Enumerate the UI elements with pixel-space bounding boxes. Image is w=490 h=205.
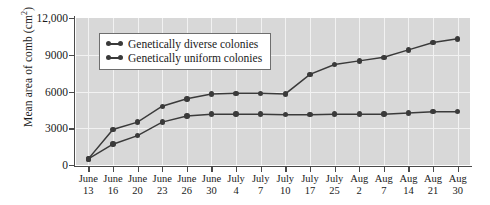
- y-tick-label: 6000: [28, 86, 68, 98]
- y-tick-label: 3000: [28, 122, 68, 134]
- x-tick-mark: [285, 167, 286, 172]
- x-tick-mark: [138, 167, 139, 172]
- x-tick-mark: [458, 167, 459, 172]
- legend-label-diverse: Genetically diverse colonies: [128, 38, 258, 50]
- grid-line-vertical: [88, 18, 89, 165]
- x-tick-day: 30: [436, 185, 480, 197]
- x-tick-label: Aug30: [436, 173, 480, 196]
- x-tick-mark: [162, 167, 163, 172]
- legend-item-diverse: Genetically diverse colonies: [106, 37, 262, 51]
- grid-line-vertical: [384, 18, 385, 165]
- y-axis-line: [74, 16, 75, 167]
- grid-line-vertical: [408, 18, 409, 165]
- y-tick-label: 12,000: [28, 12, 68, 24]
- legend-label-uniform: Genetically uniform colonies: [128, 52, 262, 64]
- y-tick-mark: [69, 128, 74, 129]
- x-tick-mark: [211, 167, 212, 172]
- x-tick-mark: [187, 167, 188, 172]
- y-tick-mark: [69, 92, 74, 93]
- x-tick-mark: [113, 167, 114, 172]
- x-tick-mark: [236, 167, 237, 172]
- grid-line-vertical: [310, 18, 311, 165]
- legend-marker-icon: [106, 54, 123, 63]
- grid-line-vertical: [335, 18, 336, 165]
- y-tick-label: 9000: [28, 49, 68, 61]
- x-tick-mark: [408, 167, 409, 172]
- y-tick-mark: [69, 165, 74, 166]
- y-tick-mark: [69, 55, 74, 56]
- grid-line-vertical: [458, 18, 459, 165]
- y-tick-label: 0: [28, 159, 68, 171]
- grid-line-vertical: [285, 18, 286, 165]
- grid-line-horizontal: [76, 128, 470, 129]
- x-tick-mark: [384, 167, 385, 172]
- legend-item-uniform: Genetically uniform colonies: [106, 51, 262, 65]
- y-tick-mark: [69, 18, 74, 19]
- grid-line-vertical: [433, 18, 434, 165]
- x-tick-mark: [310, 167, 311, 172]
- x-tick-mark: [359, 167, 360, 172]
- legend-marker-icon: [106, 40, 123, 49]
- chart-legend: Genetically diverse colonies Genetically…: [99, 33, 271, 70]
- x-tick-mark: [88, 167, 89, 172]
- x-tick-month: Aug: [436, 173, 480, 185]
- grid-line-horizontal: [76, 92, 470, 93]
- grid-line-vertical: [359, 18, 360, 165]
- y-axis-tick-labels: 030006000900012,000: [26, 0, 68, 205]
- chart-figure: Mean area of comb (cm2) 030006000900012,…: [0, 0, 490, 205]
- x-axis-line: [74, 166, 472, 167]
- x-tick-mark: [433, 167, 434, 172]
- x-tick-mark: [335, 167, 336, 172]
- x-tick-mark: [261, 167, 262, 172]
